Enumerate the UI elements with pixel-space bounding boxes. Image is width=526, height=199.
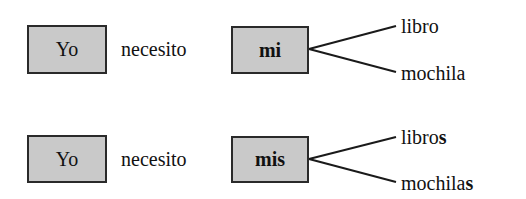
subject-box-row2: Yo	[27, 135, 107, 183]
subject-box-row1: Yo	[27, 25, 107, 74]
branch-mochilas: mochilas	[401, 173, 473, 193]
possessive-box-row1: mi	[231, 26, 309, 74]
possessive-text: mi	[259, 39, 281, 62]
branch-libro: libro	[401, 16, 439, 36]
branch-mochila: mochila	[401, 63, 465, 83]
possessive-box-row2: mis	[231, 136, 309, 183]
subject-text: Yo	[56, 148, 78, 171]
branch-libros: libros	[401, 127, 447, 147]
possessive-text: mis	[255, 148, 285, 171]
verb-text-row1: necesito	[121, 39, 187, 59]
verb-text-row2: necesito	[121, 149, 187, 169]
subject-text: Yo	[56, 38, 78, 61]
